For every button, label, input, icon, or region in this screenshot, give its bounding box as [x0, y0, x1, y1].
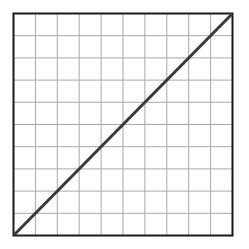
grid-diagram [0, 0, 249, 249]
